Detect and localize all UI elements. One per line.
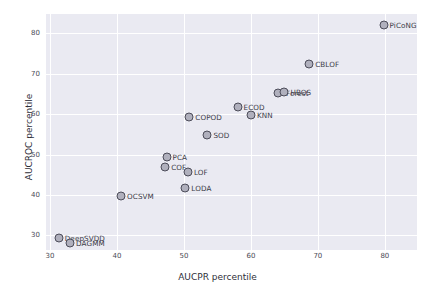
gridline-horizontal bbox=[46, 195, 417, 196]
y-axis-tick-label: 70 bbox=[31, 70, 40, 78]
plot-area: DeepSVDDDAGMMOCSVMLODALOFCOFPCASODCOPODK… bbox=[46, 14, 417, 250]
gridline-horizontal bbox=[46, 114, 417, 115]
x-axis-tick-label: 30 bbox=[46, 252, 55, 260]
scatter-point-label: LOF bbox=[194, 168, 208, 177]
scatter-point-label: PiCoNG bbox=[390, 20, 417, 29]
scatter-point bbox=[161, 162, 170, 171]
scatter-point bbox=[181, 183, 190, 192]
y-axis-tick-label: 40 bbox=[31, 191, 40, 199]
y-axis-tick-label: 50 bbox=[31, 151, 40, 159]
scatter-point-label: ECOD bbox=[244, 102, 265, 111]
gridline-vertical bbox=[117, 14, 118, 250]
scatter-point-label: COF bbox=[171, 162, 186, 171]
scatter-point bbox=[203, 131, 212, 140]
scatter-point bbox=[246, 111, 255, 120]
scatter-point-label: DAGMM bbox=[76, 238, 105, 247]
y-axis-tick-label: 80 bbox=[31, 29, 40, 37]
scatter-point-label: COPOD bbox=[195, 113, 222, 122]
scatter-point-label: LODA bbox=[191, 183, 211, 192]
gridline-vertical bbox=[50, 14, 51, 250]
scatter-point bbox=[162, 153, 171, 162]
scatter-point bbox=[185, 113, 194, 122]
x-axis-tick-label: 50 bbox=[179, 252, 188, 260]
scatter-point bbox=[66, 238, 75, 247]
gridline-horizontal bbox=[46, 74, 417, 75]
x-axis-tick-label: 70 bbox=[313, 252, 322, 260]
x-axis-tick-label: 60 bbox=[246, 252, 255, 260]
x-axis-tick-label: 80 bbox=[380, 252, 389, 260]
scatter-point-label: OCSVM bbox=[127, 191, 154, 200]
scatter-point-label: SOD bbox=[213, 131, 229, 140]
scatter-point-label: PCA bbox=[173, 153, 188, 162]
y-axis-title: AUCROC percentile bbox=[24, 62, 34, 212]
scatter-point-label: KNN bbox=[257, 111, 273, 120]
gridline-vertical bbox=[184, 14, 185, 250]
gridline-horizontal bbox=[46, 33, 417, 34]
scatter-chart-figure: DeepSVDDDAGMMOCSVMLODALOFCOFPCASODCOPODK… bbox=[0, 0, 435, 301]
gridline-vertical bbox=[385, 14, 386, 250]
y-axis-tick-label: 30 bbox=[31, 231, 40, 239]
gridline-horizontal bbox=[46, 155, 417, 156]
y-axis-tick-label: 60 bbox=[31, 110, 40, 118]
gridline-vertical bbox=[251, 14, 252, 250]
scatter-point bbox=[280, 87, 289, 96]
gridline-vertical bbox=[318, 14, 319, 250]
scatter-point-label: CBLOF bbox=[315, 59, 339, 68]
x-axis-title: AUCPR percentile bbox=[0, 272, 435, 282]
scatter-point bbox=[305, 59, 314, 68]
scatter-point bbox=[54, 234, 63, 243]
scatter-point bbox=[379, 20, 388, 29]
scatter-point bbox=[117, 191, 126, 200]
x-axis-tick-label: 40 bbox=[113, 252, 122, 260]
scatter-point-label: HBOS bbox=[290, 87, 311, 96]
scatter-point bbox=[233, 102, 242, 111]
